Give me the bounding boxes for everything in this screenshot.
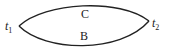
lens-diagram: C B t1 t2 <box>0 0 171 53</box>
node-t1-label: t1 <box>5 19 12 35</box>
label-b: B <box>80 29 88 43</box>
node-t2-label: t2 <box>152 16 159 32</box>
label-c: C <box>81 7 89 21</box>
